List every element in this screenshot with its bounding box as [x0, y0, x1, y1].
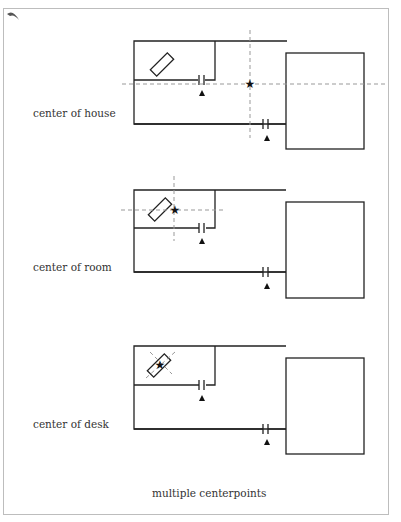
door-marker	[199, 395, 205, 401]
desk-center-star-icon: ★	[155, 358, 166, 372]
door-marker	[199, 90, 205, 96]
house-plan-2	[134, 190, 364, 298]
floorplan-diagrams: ★ ★ ★	[0, 0, 401, 522]
door-marker	[199, 238, 205, 244]
door-marker	[264, 439, 270, 445]
door-marker	[264, 135, 270, 141]
house-plan-3	[134, 346, 364, 454]
door-marker	[264, 283, 270, 289]
house-center-star-icon: ★	[245, 77, 256, 91]
room-center-star-icon: ★	[170, 203, 181, 217]
house-plan-1	[134, 41, 364, 149]
